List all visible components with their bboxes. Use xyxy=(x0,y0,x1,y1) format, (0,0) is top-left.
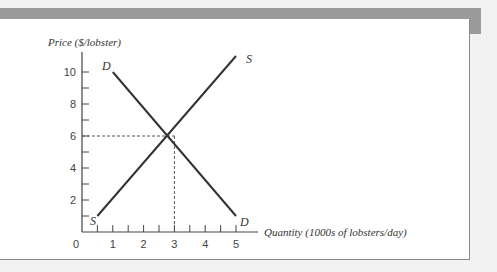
y-ticks xyxy=(82,72,89,216)
x-tick-label: 5 xyxy=(233,238,239,250)
x-tick-label: 4 xyxy=(202,238,208,250)
y-tick-label: 10 xyxy=(64,66,76,78)
supply-label-top: S xyxy=(246,52,252,66)
x-axis-label: Quantity (1000s of lobsters/day) xyxy=(264,226,407,239)
demand-label-bottom: D xyxy=(239,215,249,229)
y-tick-label: 4 xyxy=(70,162,76,174)
y-axis-label: Price ($/lobster) xyxy=(47,36,121,49)
x-ticks xyxy=(97,225,236,232)
demand-curve xyxy=(113,72,236,216)
x-tick-label: 1 xyxy=(110,238,116,250)
y-tick-label: 6 xyxy=(70,130,76,142)
y-tick-label: 8 xyxy=(70,98,76,110)
x-tick-label: 2 xyxy=(141,238,147,250)
x-tick-label: 3 xyxy=(171,238,177,250)
y-tick-label: 2 xyxy=(70,194,76,206)
demand-label-top: D xyxy=(101,59,111,73)
supply-demand-chart: 10 8 6 4 2 0 1 2 3 4 5 Price ($/lobster)… xyxy=(0,0,497,272)
supply-label-bottom: S xyxy=(90,214,96,228)
x-tick-label: 0 xyxy=(73,238,79,250)
